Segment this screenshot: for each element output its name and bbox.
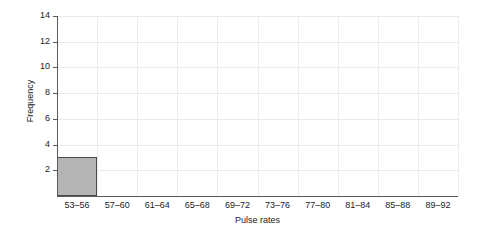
gridline-vertical [298,16,299,196]
gridline-vertical [217,16,218,196]
x-axis-tick-label: 61–64 [137,201,177,210]
y-axis-tick-mark [53,42,57,43]
y-axis-tick-mark [53,145,57,146]
x-axis-tick-label: 57–60 [97,201,137,210]
gridline-vertical [258,16,259,196]
y-axis-tick-mark [53,119,57,120]
y-axis-tick-mark [53,93,57,94]
x-axis-tick-label: 89–92 [418,201,458,210]
histogram-chart: 2468101214 53–5657–6061–6465–6869–7273–7… [0,0,482,238]
gridline-vertical [137,16,138,196]
x-axis-tick-label: 85–88 [378,201,418,210]
gridline-vertical [177,16,178,196]
y-axis-title: Frequency [25,61,35,141]
y-axis-line [57,16,58,196]
y-axis-tick-mark [53,67,57,68]
gridline-vertical [97,16,98,196]
x-axis-tick-label: 77–80 [298,201,338,210]
x-axis-title: Pulse rates [57,215,458,225]
x-axis-tick-label: 81–84 [338,201,378,210]
x-axis-tick-label: 73–76 [258,201,298,210]
x-axis-line [57,196,458,197]
y-axis-tick-label: 14 [0,11,50,20]
y-axis-tick-label: 12 [0,37,50,46]
gridline-vertical [418,16,419,196]
x-axis-tick-label: 69–72 [217,201,257,210]
x-axis-tick-label: 65–68 [177,201,217,210]
gridline-vertical [338,16,339,196]
plot-area [57,16,458,196]
x-axis-tick-label: 53–56 [57,201,97,210]
y-axis-tick-mark [53,16,57,17]
y-axis-tick-mark [53,170,57,171]
y-axis-tick-label: 2 [0,165,50,174]
gridline-vertical [378,16,379,196]
histogram-bar [57,157,97,196]
gridline-vertical [458,16,459,196]
